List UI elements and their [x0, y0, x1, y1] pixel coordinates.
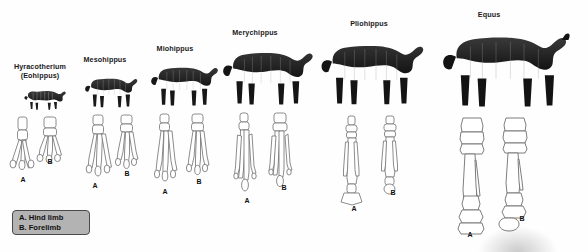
limb-label-a-equus: A	[465, 231, 475, 238]
limb-label-b-mesohippus: B	[122, 170, 132, 177]
limb-label-b-hyracotherium: B	[45, 158, 55, 165]
limb-bones-mesohippus	[84, 115, 146, 185]
limb-label-a-merychippus: A	[242, 197, 252, 204]
legend-line-hind: A. Hind limb	[19, 213, 89, 223]
species-label-merychippus: Merychippus	[222, 28, 288, 37]
legend-box: A. Hind limb B. Forelimb	[12, 210, 90, 235]
limb-label-b-pliohippus: B	[388, 189, 398, 196]
animal-silhouette-hyracotherium	[24, 82, 70, 112]
limb-bones-hyracotherium	[8, 117, 70, 179]
evolution-of-horse-figure: Hyracotherium (Eohippus) Mesohippus Mioh…	[0, 0, 588, 252]
limb-label-b-merychippus: B	[279, 184, 289, 191]
animal-silhouette-merychippus	[222, 38, 316, 114]
limb-label-a-miohippus: A	[160, 188, 170, 195]
page-smudge	[478, 226, 558, 252]
species-label-pliohippus: Pliohippus	[338, 19, 400, 28]
animal-silhouette-miohippus	[150, 56, 220, 112]
species-label-equus: Equus	[462, 10, 516, 19]
limb-bones-pliohippus	[336, 116, 416, 210]
species-label-mesohippus: Mesohippus	[76, 55, 134, 64]
animal-silhouette-mesohippus	[84, 68, 140, 112]
limb-bones-merychippus	[232, 113, 302, 201]
legend-line-fore: B. Forelimb	[19, 223, 89, 233]
limb-bones-equus	[448, 118, 548, 234]
animal-silhouette-pliohippus	[320, 29, 426, 115]
limb-label-b-miohippus: B	[194, 178, 204, 185]
limb-label-a-pliohippus: A	[349, 205, 359, 212]
species-label-hyracotherium: Hyracotherium (Eohippus)	[8, 62, 72, 80]
limb-label-b-equus: B	[517, 215, 527, 222]
limb-label-a-hyracotherium: A	[18, 176, 28, 183]
species-label-miohippus: Miohippus	[146, 44, 204, 53]
limb-label-a-mesohippus: A	[90, 182, 100, 189]
animal-silhouette-equus	[440, 20, 582, 118]
limb-bones-miohippus	[152, 114, 218, 192]
